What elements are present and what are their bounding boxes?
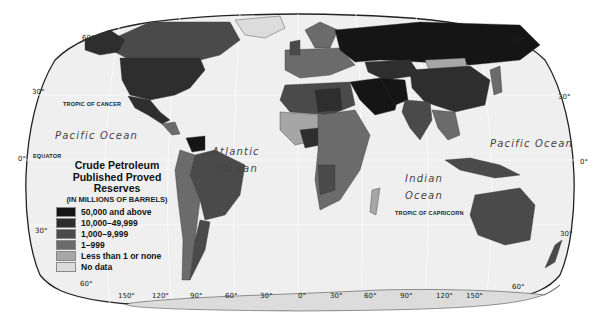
tropic-of-cancer-label: TROPIC OF CANCER — [63, 101, 121, 107]
lat-label-left-60n: 60° — [82, 34, 94, 42]
lon-label: 30° — [260, 292, 272, 300]
legend-label: No data — [81, 262, 112, 272]
ocean-label-pacific-east: Pacific Ocean — [490, 138, 573, 149]
libya — [315, 88, 342, 112]
legend-item: 1–999 — [56, 240, 182, 251]
angola — [318, 165, 335, 195]
lon-label: 120° — [152, 292, 169, 300]
ocean-label-pacific-west: Pacific Ocean — [55, 130, 138, 141]
lon-label: 150° — [466, 292, 483, 300]
lon-label: 90° — [400, 292, 412, 300]
legend-label: 50,000 and above — [81, 207, 151, 217]
lat-label-right-30n: 30° — [558, 93, 570, 101]
lat-label-left-0: 0° — [18, 155, 26, 163]
lon-label: 120° — [436, 292, 453, 300]
legend-swatch — [56, 262, 76, 272]
lon-label: 60° — [225, 292, 237, 300]
lon-label: 150° — [118, 292, 135, 300]
russia — [335, 22, 540, 65]
lat-label-left-30n: 30° — [32, 88, 44, 96]
legend-title-line2: Published Proved Reserves — [52, 172, 182, 195]
legend-item: 1,000–9,999 — [56, 229, 182, 240]
ocean-label-atlantic-2: Ocean — [220, 163, 258, 174]
legend-swatch — [56, 251, 76, 261]
legend-label: 10,000–49,999 — [81, 218, 138, 228]
lon-label: 60° — [364, 292, 376, 300]
ocean-label-indian: Indian — [405, 173, 443, 184]
legend-label: 1,000–9,999 — [81, 229, 128, 239]
tropic-of-capricorn-label: TROPIC OF CAPRICORN — [395, 210, 464, 216]
lat-label-right-60n: 60° — [512, 36, 524, 44]
lon-label: 0° — [298, 292, 306, 300]
ocean-label-indian-2: Ocean — [405, 190, 443, 201]
lat-label-left-30s: 30° — [35, 227, 47, 235]
lat-label-right-0: 0° — [580, 158, 588, 166]
lat-label-right-60s: 60° — [512, 283, 524, 291]
legend-swatch — [56, 229, 76, 239]
lat-label-right-30s: 30° — [560, 230, 572, 238]
map-legend: Crude Petroleum Published Proved Reserve… — [52, 160, 182, 273]
legend-swatch — [56, 207, 76, 217]
legend-item: Less than 1 or none — [56, 251, 182, 262]
lon-label: 30° — [330, 292, 342, 300]
lat-label-left-60s: 60° — [80, 280, 92, 288]
uk — [290, 40, 300, 55]
legend-subtitle: (IN MILLIONS OF BARRELS) — [52, 195, 182, 204]
equator-label: EQUATOR — [33, 153, 61, 159]
legend-label: 1–999 — [81, 240, 105, 250]
legend-item: 10,000–49,999 — [56, 218, 182, 229]
ocean-label-atlantic: Atlantic — [212, 146, 260, 157]
lon-label: 90° — [190, 292, 202, 300]
legend-label: Less than 1 or none — [81, 251, 161, 261]
legend-item: No data — [56, 262, 182, 273]
legend-title: Crude Petroleum — [52, 160, 182, 172]
legend-item: 50,000 and above — [56, 207, 182, 218]
legend-swatch — [56, 218, 76, 228]
legend-swatch — [56, 240, 76, 250]
